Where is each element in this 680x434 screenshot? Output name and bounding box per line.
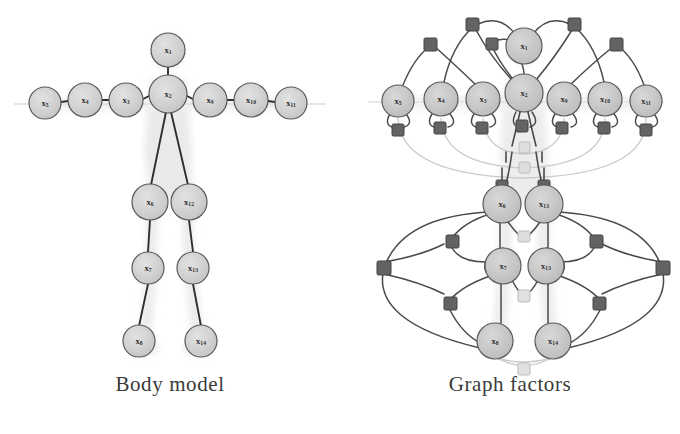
caption-body-model: Body model <box>0 372 340 397</box>
node-x7[interactable]: x7 <box>132 252 164 284</box>
figure-root: x1 x2 x3 x4 x5 <box>0 0 680 434</box>
factor-square[interactable] <box>434 122 446 134</box>
node-x11[interactable]: x11 <box>275 87 307 119</box>
panel-body-model: x1 x2 x3 x4 x5 <box>0 0 340 434</box>
body-model-svg: x1 x2 x3 x4 x5 <box>0 0 340 434</box>
factor-square[interactable] <box>446 235 459 248</box>
factor-square[interactable] <box>590 235 603 248</box>
node-x1[interactable]: x1 <box>151 33 185 67</box>
node-x4[interactable]: x4 <box>424 82 458 116</box>
node-x9[interactable]: x9 <box>193 83 227 117</box>
node-x13[interactable]: x13 <box>528 248 564 284</box>
factor-square-light[interactable] <box>519 162 530 173</box>
node-x2[interactable]: x2 <box>149 75 187 113</box>
factor-square-light[interactable] <box>518 231 530 242</box>
node-x6[interactable]: x6 <box>483 185 521 223</box>
node-x2[interactable]: x2 <box>505 74 543 112</box>
factor-square[interactable] <box>516 120 528 132</box>
node-x7[interactable]: x7 <box>485 248 521 284</box>
factor-square-light[interactable] <box>518 290 530 302</box>
node-x10[interactable]: x10 <box>234 83 268 117</box>
factor-square[interactable] <box>556 122 568 134</box>
factor-square[interactable] <box>598 122 610 134</box>
node-x3[interactable]: x3 <box>466 82 500 116</box>
panel-graph-factors: x1 x2 x3 x4 x5 <box>340 0 680 434</box>
factor-square[interactable] <box>392 124 404 136</box>
factor-square[interactable] <box>377 261 391 275</box>
node-x14[interactable]: x14 <box>535 323 571 359</box>
node-x1[interactable]: x1 <box>506 28 542 64</box>
node-x12[interactable]: x12 <box>171 184 207 220</box>
node-x8[interactable]: x8 <box>123 325 155 357</box>
node-x8[interactable]: x8 <box>477 323 513 359</box>
factor-square-light[interactable] <box>519 142 530 153</box>
graph-factors-svg: x1 x2 x3 x4 x5 <box>340 0 680 434</box>
factor-square[interactable] <box>640 124 652 136</box>
node-x12[interactable]: x13 <box>525 185 563 223</box>
node-x6[interactable]: x6 <box>132 184 168 220</box>
node-x11[interactable]: x11 <box>630 85 662 117</box>
factor-square[interactable] <box>656 261 670 275</box>
node-x10[interactable]: x10 <box>588 82 622 116</box>
node-x5[interactable]: x5 <box>29 87 61 119</box>
node-x4[interactable]: x4 <box>68 83 102 117</box>
node-x3[interactable]: x3 <box>109 83 143 117</box>
factor-square[interactable] <box>593 297 606 310</box>
node-x14[interactable]: x14 <box>185 325 217 357</box>
factor-square[interactable] <box>466 18 479 31</box>
factor-square[interactable] <box>610 38 623 51</box>
node-x5[interactable]: x5 <box>382 85 414 117</box>
node-x13[interactable]: x13 <box>177 252 209 284</box>
caption-graph-factors: Graph factors <box>340 372 680 397</box>
factor-square[interactable] <box>424 38 437 51</box>
factor-square[interactable] <box>444 297 457 310</box>
factor-square[interactable] <box>476 122 488 134</box>
node-x9[interactable]: x9 <box>547 82 581 116</box>
factor-square[interactable] <box>486 38 498 50</box>
factor-square[interactable] <box>568 18 581 31</box>
